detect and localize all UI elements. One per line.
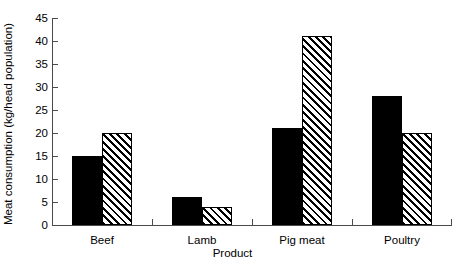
bar-chart: Meat consumption (kg/head population) 05… (0, 0, 465, 268)
y-axis-tick: 30 (53, 87, 58, 88)
x-axis-line (52, 225, 452, 226)
y-axis-tick-label: 5 (22, 194, 48, 210)
bar-beef-hatched (102, 133, 132, 225)
y-axis-tick-label: 0 (22, 217, 48, 233)
y-axis-tick: 20 (53, 133, 58, 134)
bar-lamb-solid (172, 197, 202, 225)
y-axis-tick-label: 25 (22, 102, 48, 118)
y-axis-title: Meat consumption (kg/head population) (0, 8, 17, 240)
y-axis-tick-label: 45 (22, 10, 48, 26)
y-axis-tick: 45 (53, 18, 58, 19)
y-axis-tick-label: 35 (22, 56, 48, 72)
x-axis-title: Product (0, 246, 465, 261)
x-axis-tick (352, 219, 353, 225)
y-axis-tick: 40 (53, 41, 58, 42)
y-axis-tick: 15 (53, 156, 58, 157)
bar-poultry-hatched (402, 133, 432, 225)
y-axis-tick-label: 20 (22, 125, 48, 141)
y-axis-tick-label: 10 (22, 171, 48, 187)
y-axis-tick-label: 40 (22, 33, 48, 49)
x-axis-tick (252, 219, 253, 225)
y-axis-tick: 5 (53, 202, 58, 203)
bar-pig-meat-hatched (302, 36, 332, 225)
y-axis-line (52, 18, 53, 226)
y-axis-tick-label: 15 (22, 148, 48, 164)
bar-poultry-solid (372, 96, 402, 225)
y-axis-tick: 0 (53, 225, 58, 226)
x-axis-tick (152, 219, 153, 225)
y-axis-tick: 25 (53, 110, 58, 111)
y-axis-tick: 35 (53, 64, 58, 65)
bar-pig-meat-solid (272, 128, 302, 225)
x-axis-tick (451, 219, 452, 225)
plot-area: 051015202530354045 BeefLambPig meatPoult… (52, 18, 452, 226)
bar-beef-solid (72, 156, 102, 225)
y-axis-tick-label: 30 (22, 79, 48, 95)
bar-lamb-hatched (202, 207, 232, 225)
y-axis-tick: 10 (53, 179, 58, 180)
